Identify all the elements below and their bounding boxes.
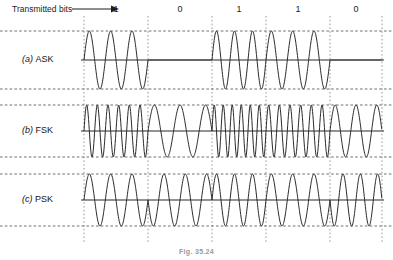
figure-caption: Fig. 35.24 [0, 248, 393, 255]
modulation-figure [0, 0, 393, 260]
row-tag-ask: (a) [22, 54, 36, 64]
bit-value-1: 0 [170, 4, 190, 14]
bit-value-2: 1 [229, 4, 249, 14]
row-label-ask: (a) ASK [22, 54, 54, 64]
transmitted-bits-label: Transmitted bits [12, 4, 72, 14]
row-name-ask: ASK [36, 54, 54, 64]
row-tag-psk: (c) [22, 194, 35, 204]
bit-value-4: 0 [346, 4, 366, 14]
row-name-fsk: FSK [36, 125, 54, 135]
row-tag-fsk: (b) [22, 125, 36, 135]
grid-layer [0, 16, 393, 243]
bit-value-3: 1 [288, 4, 308, 14]
row-label-psk: (c) PSK [22, 194, 53, 204]
row-label-fsk: (b) FSK [22, 125, 53, 135]
bit-value-0: 1 [106, 4, 126, 14]
row-name-psk: PSK [35, 194, 53, 204]
